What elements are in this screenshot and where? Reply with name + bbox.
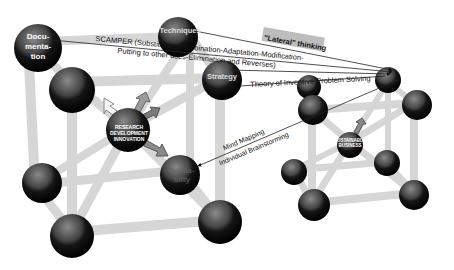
sphere-front-top-left: [49, 67, 95, 113]
sphere-bottom-front-left: [50, 214, 94, 258]
availability-line2: bility: [164, 175, 200, 184]
techniques-label: Techniques: [158, 26, 202, 35]
documentation-label: Docu- menta- tion: [18, 32, 58, 62]
sustainable-business-label: SUSTAINABLE BUSINESS: [330, 138, 370, 148]
documentation-line3: tion: [18, 52, 58, 62]
sphere-bottom-back-left: [22, 163, 62, 203]
sphere-bottom-front-right: [198, 200, 242, 244]
strategy-label: Strategy: [202, 72, 242, 81]
availability-line1: Availa-: [164, 166, 200, 175]
documentation-line2: menta-: [18, 42, 58, 52]
documentation-line1: Docu-: [18, 32, 58, 42]
availability-label: Availa- bility: [164, 166, 200, 184]
research-development-innovation-label: RESEARCH DEVELOPMENT INNOVATION: [104, 124, 154, 142]
diagram-canvas: [0, 0, 454, 270]
right-center-line2: BUSINESS: [330, 143, 370, 148]
center-line3: INNOVATION: [104, 136, 154, 142]
